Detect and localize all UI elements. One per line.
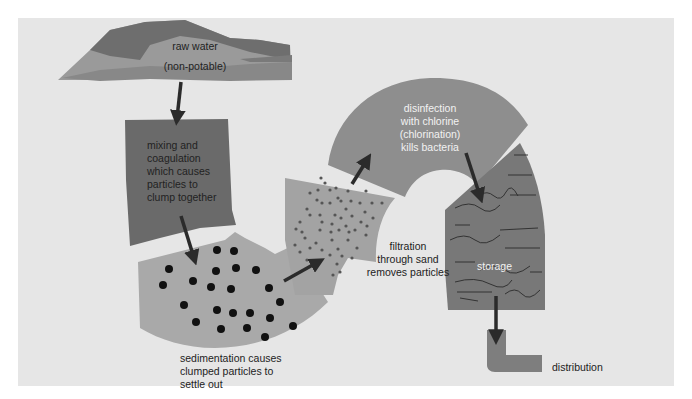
sedimentation-line: settle out <box>180 378 310 391</box>
mixing-line: particles to <box>147 178 237 191</box>
distribution-text: distribution <box>552 361 603 373</box>
raw-water-line-1: raw water <box>155 40 235 53</box>
sedimentation-line: sedimentation causes <box>180 352 310 365</box>
storage-label: storage <box>477 260 512 273</box>
disinfection-line: disinfection <box>385 102 475 115</box>
filtration-label: filtration through sand removes particle… <box>364 240 452 279</box>
sedimentation-label: sedimentation causes clumped particles t… <box>180 352 310 391</box>
filtration-line: through sand <box>364 253 452 266</box>
mixing-line: mixing and <box>147 139 237 152</box>
raw-water-label: raw water <box>155 40 235 53</box>
storage-text: storage <box>477 260 512 272</box>
non-potable-label: (non-potable) <box>150 60 240 73</box>
disinfection-label: disinfection with chlorine (chlorination… <box>385 102 475 154</box>
mixing-label: mixing and coagulation which causes part… <box>147 139 237 204</box>
raw-water-line-2: (non-potable) <box>150 60 240 73</box>
water-treatment-diagram <box>0 0 692 399</box>
sedimentation-line: clumped particles to <box>180 365 310 378</box>
mixing-line: coagulation <box>147 152 237 165</box>
disinfection-line: (chlorination) <box>385 128 475 141</box>
mixing-line: clump together <box>147 191 237 204</box>
disinfection-line: with chlorine <box>385 115 475 128</box>
disinfection-line: kills bacteria <box>385 141 475 154</box>
distribution-label: distribution <box>552 361 603 374</box>
mixing-line: which causes <box>147 165 237 178</box>
filtration-line: filtration <box>364 240 452 253</box>
filtration-line: removes particles <box>364 266 452 279</box>
